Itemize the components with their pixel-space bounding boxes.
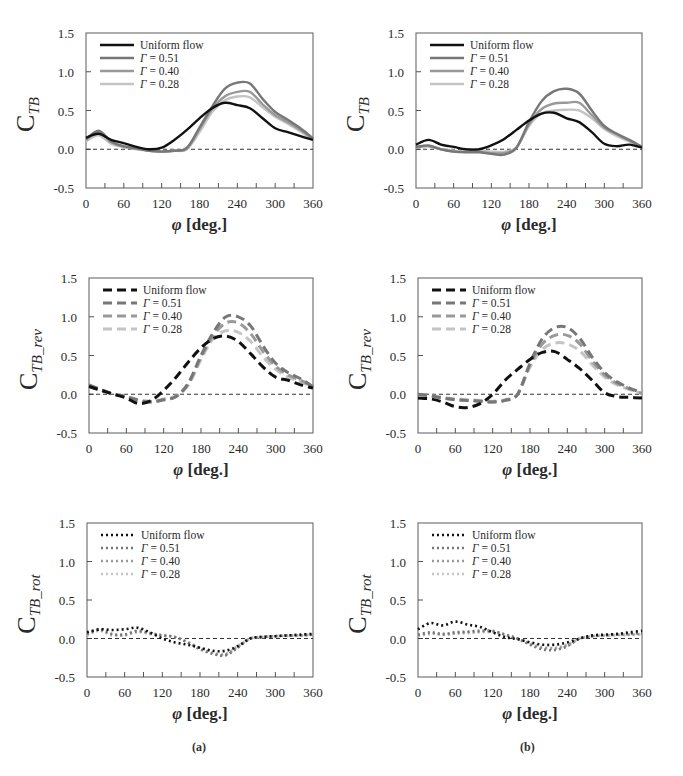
x-axis-label: φ [deg.] <box>173 460 228 479</box>
x-tick-label: 240 <box>557 196 577 211</box>
legend-label: Γ = 0.28 <box>140 568 180 580</box>
y-tick-label: 0.5 <box>61 349 77 364</box>
y-tick-label: 1.5 <box>390 516 406 531</box>
y-tick-label: 0.0 <box>390 632 406 647</box>
x-tick-label: 300 <box>595 441 615 456</box>
x-tick-label: 60 <box>449 441 462 456</box>
figure: 060120180240300360-0.50.00.51.01.5Unifor… <box>0 0 683 776</box>
x-axis-label: φ [deg.] <box>172 704 227 723</box>
y-tick-label: 1.5 <box>61 271 77 286</box>
legend-label: Γ = 0.51 <box>139 52 179 64</box>
legend: Uniform flowΓ = 0.51Γ = 0.40Γ = 0.28 <box>100 39 204 90</box>
series-line <box>418 631 642 651</box>
plot-frame <box>418 523 642 677</box>
x-axis-label: φ [deg.] <box>172 215 227 234</box>
x-tick-label: 240 <box>558 441 578 456</box>
x-axis-label: φ [deg.] <box>501 215 556 234</box>
legend-label: Γ = 0.28 <box>469 78 509 90</box>
x-tick-label: 240 <box>228 685 248 700</box>
legend: Uniform flowΓ = 0.51Γ = 0.40Γ = 0.28 <box>432 529 536 580</box>
chart-panel-a1: 060120180240300360-0.50.00.51.01.5Unifor… <box>11 26 323 234</box>
x-tick-label: 360 <box>632 196 652 211</box>
x-tick-label: 360 <box>303 685 323 700</box>
legend-label: Γ = 0.40 <box>142 310 182 322</box>
x-tick-label: 300 <box>265 196 285 211</box>
plot-frame <box>418 278 642 433</box>
plot-frame <box>89 278 313 433</box>
y-tick-label: 1.0 <box>390 555 406 570</box>
series-line <box>87 628 313 652</box>
plot-frame <box>86 33 313 188</box>
x-tick-label: 240 <box>558 685 578 700</box>
legend-label: Uniform flow <box>470 39 534 51</box>
x-tick-label: 0 <box>83 196 90 211</box>
series-line <box>89 330 313 401</box>
y-tick-label: 0.5 <box>388 104 404 119</box>
x-tick-label: 240 <box>228 196 248 211</box>
legend-label: Γ = 0.51 <box>469 52 509 64</box>
x-tick-label: 120 <box>153 685 173 700</box>
x-axis-label: φ [deg.] <box>502 460 557 479</box>
x-tick-label: 0 <box>415 441 422 456</box>
y-tick-label: 0.0 <box>388 142 404 157</box>
x-tick-label: 300 <box>595 196 615 211</box>
y-tick-label: -0.5 <box>385 426 406 441</box>
chart-panel-b2: 060120180240300360-0.50.00.51.01.5Unifor… <box>343 271 652 479</box>
y-tick-label: 0.5 <box>59 593 75 608</box>
series-line <box>418 334 642 402</box>
x-tick-label: 120 <box>154 441 174 456</box>
y-tick-label: -0.5 <box>54 670 75 685</box>
x-tick-label: 60 <box>120 441 133 456</box>
legend-label: Γ = 0.40 <box>471 555 511 567</box>
y-axis-label: CTB_rev <box>343 329 374 390</box>
legend-label: Uniform flow <box>140 39 204 51</box>
legend-label: Γ = 0.28 <box>139 78 179 90</box>
legend-label: Γ = 0.51 <box>471 297 511 309</box>
caption-b: (b) <box>520 740 535 755</box>
y-tick-label: 0.0 <box>58 142 74 157</box>
y-axis-label: CTB <box>341 97 372 132</box>
legend-label: Uniform flow <box>143 284 207 296</box>
x-tick-label: 360 <box>632 441 652 456</box>
x-tick-label: 240 <box>229 441 249 456</box>
y-tick-label: 1.0 <box>388 65 404 80</box>
x-tick-label: 360 <box>303 196 323 211</box>
legend-label: Γ = 0.40 <box>139 65 179 77</box>
chart-panel-b3: 060120180240300360-0.50.00.51.01.5Unifor… <box>343 516 652 723</box>
legend-label: Γ = 0.40 <box>469 65 509 77</box>
x-tick-label: 120 <box>152 196 172 211</box>
y-tick-label: 1.5 <box>58 26 74 41</box>
legend-label: Γ = 0.40 <box>140 555 180 567</box>
x-tick-label: 180 <box>191 441 211 456</box>
x-axis-label: φ [deg.] <box>502 704 557 723</box>
y-tick-label: 1.0 <box>59 555 75 570</box>
y-tick-label: 0.5 <box>58 104 74 119</box>
plot-frame <box>416 33 642 188</box>
chart-panel-b1: 060120180240300360-0.50.00.51.01.5Unifor… <box>341 26 652 234</box>
y-tick-label: 1.5 <box>388 26 404 41</box>
series-line <box>87 629 313 655</box>
legend-label: Γ = 0.28 <box>471 568 511 580</box>
x-tick-label: 180 <box>190 685 210 700</box>
chart-panel-a3: 060120180240300360-0.50.00.51.01.5Unifor… <box>12 516 323 723</box>
y-tick-label: 1.0 <box>390 310 406 325</box>
legend-label: Γ = 0.51 <box>142 297 182 309</box>
y-tick-label: 0.0 <box>390 387 406 402</box>
legend-label: Γ = 0.51 <box>471 542 511 554</box>
x-tick-label: 300 <box>266 441 286 456</box>
series-line <box>418 622 642 645</box>
series-line <box>418 326 642 402</box>
x-tick-label: 0 <box>84 685 91 700</box>
y-axis-label: CTB <box>11 97 42 132</box>
y-axis-label: CTB_rev <box>14 329 45 390</box>
legend-label: Uniform flow <box>472 529 536 541</box>
x-tick-label: 0 <box>413 196 420 211</box>
legend: Uniform flowΓ = 0.51Γ = 0.40Γ = 0.28 <box>430 39 534 90</box>
figure-canvas: 060120180240300360-0.50.00.51.01.5Unifor… <box>0 0 683 776</box>
legend-label: Uniform flow <box>141 529 205 541</box>
x-tick-label: 60 <box>449 685 462 700</box>
y-tick-label: 1.5 <box>59 516 75 531</box>
x-tick-label: 60 <box>117 196 130 211</box>
y-tick-label: 0.5 <box>390 349 406 364</box>
y-tick-label: -0.5 <box>383 181 404 196</box>
